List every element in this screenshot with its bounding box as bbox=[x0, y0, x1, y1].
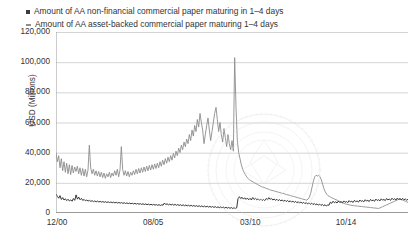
plot-svg bbox=[56, 32, 408, 213]
x-tick-label: 10/14 bbox=[336, 218, 357, 227]
series-line bbox=[56, 194, 408, 208]
x-tick-label: 03/10 bbox=[240, 218, 261, 227]
series-paths bbox=[56, 58, 408, 209]
x-tick-label: 08/05 bbox=[143, 218, 164, 227]
x-tick-label: 12/00 bbox=[47, 218, 68, 227]
gridlines bbox=[56, 33, 408, 214]
series-line bbox=[56, 58, 408, 209]
commercial-paper-chart: Amount of AA non-financial commercial pa… bbox=[0, 0, 414, 241]
plot-area bbox=[56, 32, 408, 213]
